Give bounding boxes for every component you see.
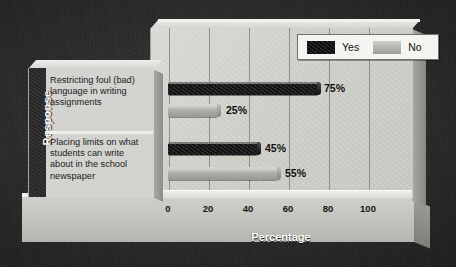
x-tick-0: 0: [165, 203, 170, 214]
category-label-2: Placing limits on what students can writ…: [50, 137, 150, 182]
plot-floor: [150, 191, 412, 198]
bar-end-cap: [317, 82, 321, 95]
category-label-2-line4: newspaper: [50, 171, 150, 182]
x-tick-60: 60: [283, 203, 294, 214]
legend: Yes No: [297, 34, 439, 60]
x-tick-20: 20: [203, 203, 214, 214]
category-label-1-line1: Restricting foul (bad): [50, 75, 150, 86]
legend-swatch-no: [373, 41, 401, 54]
category-label-1: Restricting foul (bad) language in writi…: [50, 75, 150, 109]
category-label-1-line3: assignments: [50, 97, 150, 108]
data-label-yes-1: 75%: [324, 82, 345, 94]
bar-yes-restricting-foul-language: [168, 82, 318, 95]
category-divider: [45, 131, 153, 134]
x-axis-title: Percentage: [150, 231, 412, 243]
x-tick-80: 80: [323, 203, 334, 214]
x-tick-100: 100: [360, 203, 376, 214]
legend-label-no: No: [408, 41, 421, 53]
category-label-1-line2: language in writing: [50, 86, 150, 97]
legend-label-yes: Yes: [342, 41, 359, 53]
data-label-no-1: 25%: [226, 104, 247, 116]
chart-base-side-face: [414, 200, 430, 248]
plot-panel-top-highlight: [158, 19, 420, 22]
category-label-2-line1: Placing limits on what: [50, 137, 150, 148]
bar-end-cap: [217, 104, 221, 117]
chart-screenshot: 75% 25% 45% 55% Response Restricting fou…: [0, 0, 456, 267]
y-axis-title-strip: Response: [29, 68, 46, 197]
bar-yes-placing-limits-newspaper: [168, 142, 258, 155]
data-label-yes-2: 45%: [265, 142, 286, 154]
category-label-2-line3: about in the school: [50, 159, 150, 170]
bar-end-cap: [277, 167, 281, 180]
bar-end-cap: [257, 142, 261, 155]
bar-no-placing-limits-newspaper: [168, 167, 278, 180]
x-tick-40: 40: [243, 203, 254, 214]
bar-no-restricting-foul-language: [168, 104, 218, 117]
legend-swatch-yes: [307, 41, 335, 54]
category-label-2-line2: students can write: [50, 148, 150, 159]
data-label-no-2: 55%: [285, 167, 306, 179]
